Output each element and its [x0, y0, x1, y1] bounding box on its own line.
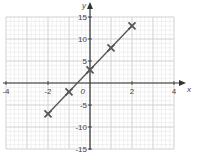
line-chart: xy-4-224-15-10-5510150 [0, 0, 199, 153]
y-tick-label: -5 [80, 101, 88, 110]
x-tick-label: 4 [172, 87, 177, 96]
x-axis-label: x [186, 85, 192, 94]
x-tick-label: -2 [44, 87, 52, 96]
x-tick-label: 2 [130, 87, 135, 96]
x-axis-arrow-icon [179, 80, 186, 86]
origin-label: 0 [81, 87, 86, 96]
y-tick-label: -15 [75, 145, 87, 153]
axes [3, 2, 186, 150]
y-axis-label: y [81, 1, 87, 10]
y-tick-label: 15 [78, 13, 87, 22]
y-tick-label: -10 [75, 123, 87, 132]
y-tick-label: 5 [83, 57, 88, 66]
x-tick-label: -4 [2, 87, 10, 96]
y-tick-label: 10 [78, 35, 87, 44]
tick-labels: xy-4-224-15-10-5510150 [2, 1, 192, 153]
y-axis-arrow-icon [87, 2, 93, 9]
